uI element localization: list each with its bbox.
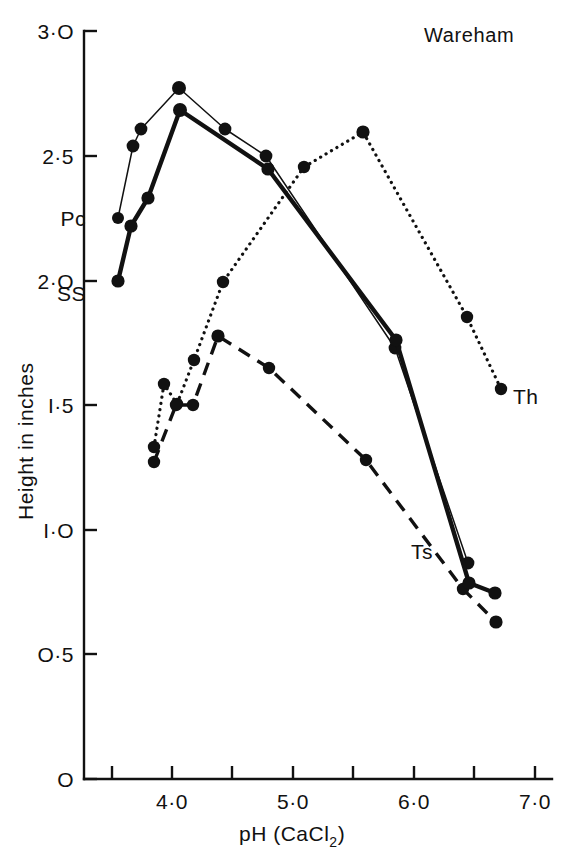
series-th-line xyxy=(154,132,501,447)
y-tick-label-2-5: 2·5 xyxy=(42,145,74,168)
data-point xyxy=(188,354,200,366)
data-point xyxy=(462,576,475,589)
data-point xyxy=(495,383,507,395)
series-labels: Pc SS Th Ts xyxy=(57,207,539,563)
data-point xyxy=(173,103,187,117)
data-point xyxy=(461,311,473,323)
data-point xyxy=(127,140,140,153)
data-point xyxy=(298,161,310,173)
series-pc-line xyxy=(118,88,468,563)
series-label-ts: Ts xyxy=(411,540,433,563)
axes-group xyxy=(84,31,552,779)
y-tick-labels: 3·O 2·5 2·O I·5 I·O O·5 O xyxy=(37,20,74,791)
series-ss-markers xyxy=(111,103,501,600)
data-point xyxy=(389,333,402,346)
series-label-ss: SS xyxy=(57,282,86,305)
data-point xyxy=(148,456,160,468)
x-axis-title-main: pH (CaCl xyxy=(239,822,329,845)
series-ss xyxy=(111,103,501,600)
chart-page: 3·O 2·5 2·O I·5 I·O O·5 O 4·0 5·0 6·0 7·… xyxy=(0,0,580,854)
data-point xyxy=(141,191,154,204)
y-tick-label-3-0: 3·O xyxy=(37,20,74,43)
data-point xyxy=(219,123,232,136)
data-point xyxy=(111,274,124,287)
data-point xyxy=(187,399,199,411)
x-tick-marks xyxy=(112,766,535,779)
data-point xyxy=(263,362,275,374)
data-point xyxy=(170,399,182,411)
y-axis-title: Height in inches xyxy=(14,363,37,520)
x-tick-label-4-0: 4·0 xyxy=(156,790,188,813)
x-axis-title: pH (CaCl2) xyxy=(239,822,345,850)
data-point xyxy=(124,219,137,232)
y-tick-marks xyxy=(84,31,97,779)
x-axis-title-subscript: 2 xyxy=(329,834,337,850)
series-label-pc: Pc xyxy=(60,207,86,230)
data-point xyxy=(488,586,501,599)
data-point xyxy=(360,454,372,466)
y-tick-label-1-5: I·5 xyxy=(48,394,74,417)
data-point xyxy=(261,162,274,175)
data-point xyxy=(217,276,229,288)
data-point xyxy=(172,81,186,95)
y-tick-label-0: O xyxy=(57,768,74,791)
data-point xyxy=(260,150,273,163)
x-axis-title-tail: ) xyxy=(338,822,346,845)
series-ts-markers xyxy=(148,329,503,628)
series-pc xyxy=(112,81,474,569)
data-point xyxy=(112,212,124,224)
series-label-th: Th xyxy=(513,385,539,408)
data-point xyxy=(356,125,369,138)
x-tick-label-7-0: 7·0 xyxy=(519,790,551,813)
y-tick-label-0-5: O·5 xyxy=(37,643,74,666)
x-tick-labels: 4·0 5·0 6·0 7·0 xyxy=(156,790,551,813)
x-tick-label-6-0: 6·0 xyxy=(398,790,430,813)
series-ss-line xyxy=(118,110,495,593)
data-point xyxy=(135,123,148,136)
plot-title: Wareham xyxy=(424,24,514,46)
data-point xyxy=(489,615,502,628)
data-point xyxy=(158,378,170,390)
series-th-markers xyxy=(148,125,507,453)
data-point xyxy=(211,329,224,342)
series-ts-line xyxy=(154,336,496,622)
y-tick-label-1-0: I·O xyxy=(43,519,74,542)
wareham-ph-height-chart: 3·O 2·5 2·O I·5 I·O O·5 O 4·0 5·0 6·0 7·… xyxy=(0,0,580,854)
series-th xyxy=(148,125,507,453)
series-ts xyxy=(148,329,503,628)
x-tick-label-5-0: 5·0 xyxy=(277,790,309,813)
series-pc-markers xyxy=(112,81,474,569)
